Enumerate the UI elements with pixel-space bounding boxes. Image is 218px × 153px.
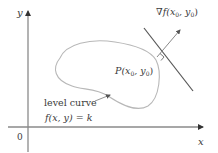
level-curve-pointer	[95, 95, 110, 101]
x-axis-label: x	[198, 136, 204, 147]
level-curve-diagram: y x 0 ∇f(x0, y0) P(x0, y0) level curve f…	[0, 0, 218, 153]
level-curve-label: level curve	[44, 97, 97, 108]
level-curve-equation: f(x, y) = k	[44, 112, 93, 123]
origin-label: 0	[17, 132, 23, 142]
tangent-line	[144, 28, 193, 91]
right-angle-mark	[160, 54, 164, 61]
y-axis-label: y	[16, 7, 23, 18]
gradient-label: ∇f(x0, y0)	[156, 6, 198, 18]
point-p-label: P(x0, y0)	[114, 65, 153, 77]
gradient-vector-arrow	[157, 30, 180, 57]
